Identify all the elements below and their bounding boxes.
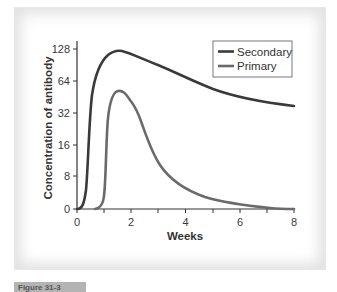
y-tick-32: 32 <box>58 107 70 119</box>
x-tick-4: 4 <box>182 216 188 228</box>
y-tick-16: 16 <box>58 139 70 151</box>
x-tick-labels: 0 2 4 6 8 <box>74 216 297 228</box>
x-tick-6: 6 <box>237 216 243 228</box>
y-tick-64: 64 <box>58 75 70 87</box>
legend-label-secondary: Secondary <box>237 46 292 58</box>
legend-label-primary: Primary <box>237 60 277 72</box>
primary-response-line <box>95 91 294 209</box>
y-tick-labels: 128 64 32 16 8 0 <box>52 43 70 215</box>
legend: Secondary Primary <box>213 41 292 77</box>
x-axis-title: Weeks <box>167 230 203 242</box>
x-tick-0: 0 <box>74 216 80 228</box>
figure-caption: Figure 31-3 <box>14 282 86 292</box>
x-tick-8: 8 <box>291 216 297 228</box>
y-axis-title: Concentration of antibody <box>42 56 54 200</box>
y-tick-8: 8 <box>64 170 70 182</box>
y-tick-0: 0 <box>64 203 70 215</box>
x-ticks <box>77 209 294 213</box>
y-tick-128: 128 <box>52 43 70 55</box>
x-tick-2: 2 <box>128 216 134 228</box>
